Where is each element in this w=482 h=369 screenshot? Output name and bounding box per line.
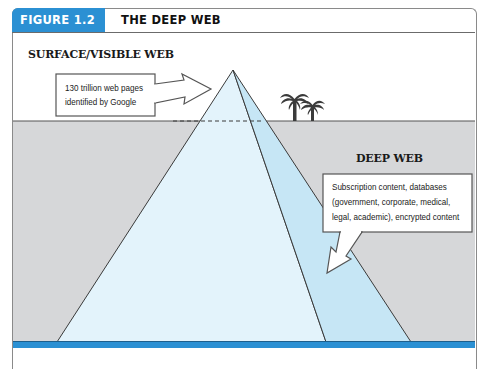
- deep-callout-line-2: (government, corporate, medical,: [332, 195, 450, 209]
- palm-trees-icon: [280, 94, 325, 121]
- seabed-bar: [13, 341, 475, 348]
- deep-callout-line-1: Subscription content, databases: [332, 180, 447, 194]
- deep-web-label: DEEP WEB: [356, 152, 423, 165]
- surface-callout-line-1: 130 trillion web pages: [65, 81, 143, 95]
- surface-callout-line-2: identified by Google: [65, 95, 136, 109]
- surface-web-label: SURFACE/VISIBLE WEB: [28, 48, 174, 61]
- deep-callout-line-3: legal, academic), encrypted content: [332, 210, 459, 224]
